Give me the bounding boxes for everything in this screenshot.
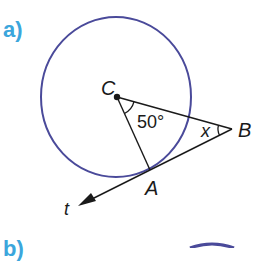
arrowhead-icon	[78, 193, 96, 206]
label-C: C	[101, 77, 116, 99]
label-angle-x: x	[200, 121, 211, 141]
radius-CA	[117, 97, 150, 170]
label-angle-50: 50°	[137, 112, 164, 132]
label-t: t	[64, 199, 70, 219]
label-A: A	[144, 177, 158, 199]
next-figure-circle-partial	[190, 244, 234, 248]
label-B: B	[238, 119, 251, 141]
angle-arc-B	[218, 125, 220, 135]
angle-arc-C	[125, 102, 135, 114]
